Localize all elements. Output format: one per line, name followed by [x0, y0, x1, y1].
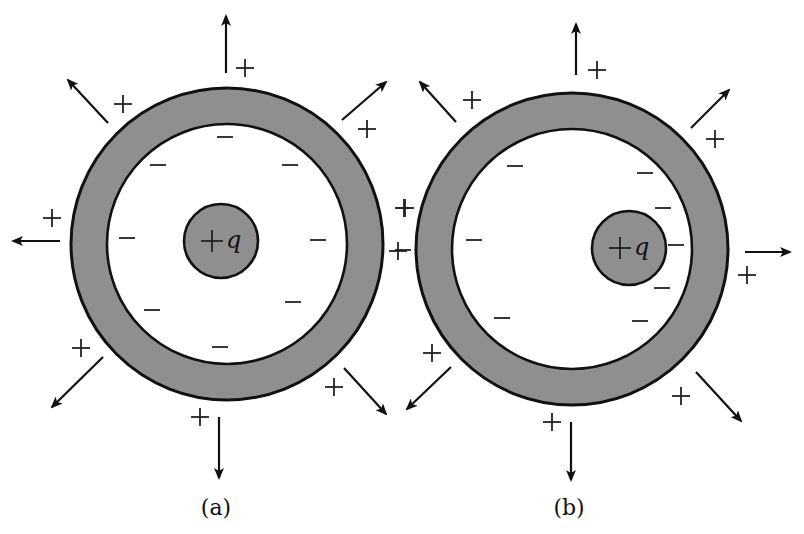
charge-variable: q: [634, 233, 649, 261]
plus-sign-icon: [396, 199, 414, 217]
plus-sign-icon: [423, 344, 441, 362]
plus-sign-icon: [43, 209, 61, 227]
charge-variable: q: [226, 226, 241, 254]
shell-charge-diagram: q (a) q (b): [0, 0, 804, 534]
plus-sign-icon: [463, 91, 481, 109]
field-arrow-lower-right-icon: [696, 372, 741, 421]
plus-sign-icon: [389, 242, 407, 260]
field-arrow-upper-left-icon: [420, 82, 456, 122]
panel-a: q (a): [13, 16, 413, 520]
field-arrow-upper-left-icon: [68, 80, 108, 123]
point-charge: q: [184, 204, 258, 278]
plus-sign-icon: [738, 266, 756, 284]
field-arrow-lower-left-icon: [407, 367, 451, 409]
plus-sign-icon: [114, 95, 132, 113]
plus-sign-icon: [706, 130, 724, 148]
conducting-shell: [416, 93, 728, 405]
plus-sign-icon: [72, 339, 90, 357]
panel-caption-a: (a): [201, 495, 231, 520]
panel-b: q (b): [395, 24, 790, 520]
point-charge: q: [592, 211, 666, 285]
field-arrow-lower-left-icon: [52, 357, 103, 407]
plus-sign-icon: [672, 387, 690, 405]
field-arrow-upper-right-icon: [691, 90, 729, 128]
panel-caption-b: (b): [553, 495, 584, 520]
plus-sign-icon: [588, 61, 606, 79]
plus-sign-icon: [543, 413, 561, 431]
field-arrow-lower-right-icon: [344, 368, 386, 414]
plus-sign-icon: [236, 59, 254, 77]
plus-sign-icon: [325, 378, 343, 396]
plus-sign-icon: [358, 120, 376, 138]
plus-sign-icon: [191, 408, 209, 426]
field-arrow-upper-right-icon: [342, 82, 386, 120]
